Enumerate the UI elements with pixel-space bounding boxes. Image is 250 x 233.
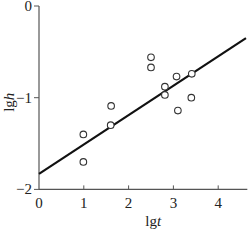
x-axis-label: lgt	[145, 213, 162, 229]
data-point	[148, 64, 155, 71]
y-tick-label: −1	[16, 90, 32, 106]
x-tick-label: 4	[214, 195, 222, 211]
fit-line	[39, 38, 246, 174]
x-tick-label: 0	[35, 195, 43, 211]
data-point	[188, 94, 195, 101]
y-tick-label: −2	[16, 181, 32, 197]
axes: 012340−1−2	[16, 0, 247, 211]
data-point	[175, 107, 182, 114]
data-point	[173, 73, 180, 80]
data-point	[148, 54, 155, 61]
data-point	[108, 103, 115, 110]
regression-line	[39, 38, 246, 174]
y-axis-label: lgh	[1, 93, 17, 112]
data-point	[80, 159, 87, 166]
data-point	[107, 122, 114, 129]
data-point	[188, 71, 195, 78]
x-tick-label: 1	[80, 195, 88, 211]
x-tick-label: 3	[170, 195, 178, 211]
data-point	[162, 83, 169, 90]
x-tick-label: 2	[125, 195, 133, 211]
y-tick-label: 0	[25, 0, 33, 14]
data-point	[162, 92, 169, 99]
scatter-chart: 012340−1−2 lgtlgh	[0, 0, 250, 233]
data-point	[80, 131, 87, 138]
